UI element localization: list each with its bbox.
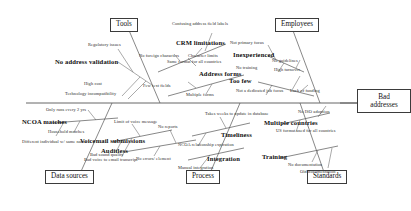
cause-label-multiple-forms[interactable]: Multiple forms [186,93,214,98]
twig-no-address-validation [118,62,152,85]
cause-label-takes-weeks-update-database[interactable]: Takes weeks to update in database [205,112,249,117]
cause-label-us-format-all-countries[interactable]: US format used for all countries [276,129,322,134]
twig-old-documentation [328,148,332,168]
cause-label-no-iso-adoption[interactable]: No ISO adoption [298,110,330,115]
bone-label-multiple-countries[interactable]: Multiple countries [264,120,318,127]
twig-few-text-fields [188,82,196,88]
cause-label-few-text-fields[interactable]: Few text fields [143,84,171,89]
cause-label-no-errors-element[interactable]: No errors/ element [136,157,171,162]
cause-label-household-matches[interactable]: Household matches [48,130,84,135]
effect-label-line1: Bad addresses [364,93,404,109]
cause-label-bad-voice-to-email-transcript[interactable]: Bad voice to email transcript [84,158,122,163]
twig-no-documentation [312,150,318,162]
cause-label-no-documentation[interactable]: No documentation [288,163,322,168]
bone-label-voicemail-submissions[interactable]: Voicemail submissions [80,138,145,145]
cause-label-not-primary-focus[interactable]: Not primary focus [230,41,264,46]
cause-label-ncoa-relationship-expiration[interactable]: NCOA relationship expiration [178,143,216,148]
cause-label-different-individual-same-name[interactable]: Different individual w/ same name [22,140,66,145]
twig-no-reports [170,130,176,143]
bone-label-timeliness[interactable]: Timeliness [221,132,252,139]
category-box-employees[interactable]: Employees [275,18,319,32]
twig-regulatory [118,49,133,72]
cause-label-only-runs-every-2-yrs[interactable]: Only runs every 2 yrs [46,108,86,113]
twig-takes-weeks [220,117,226,128]
twig-no-errors [154,146,160,156]
cause-label-not-dedicated-job-focus[interactable]: Not a dedicated job focus [236,89,272,94]
cause-label-confusing-address-field-labels[interactable]: Confusing address field labels [172,22,228,27]
cause-label-limit-of-voice-message[interactable]: Limit of voice message [114,120,144,125]
category-box-data-sources[interactable]: Data sources [45,170,94,184]
cause-label-no-reports[interactable]: No reports [158,125,178,130]
category-label-process: Process [192,172,214,180]
bone-label-crm-limitations[interactable]: CRM limitations [176,40,225,47]
cause-label-character-limits[interactable]: Character limits [188,54,218,59]
cause-label-high-cost[interactable]: High cost [84,82,102,87]
twig-only-2yrs [88,110,96,120]
cause-label-no-training[interactable]: No training [236,66,257,71]
cause-label-no-guidelines[interactable]: No guidelines [272,59,298,64]
bone-label-no-address-validation[interactable]: No address validation [55,59,118,66]
twig-limit-voice [132,124,140,136]
category-label-data-sources: Data sources [51,172,88,180]
bone-label-training[interactable]: Training [262,154,287,161]
effect-box-bad-addresses[interactable]: Bad addresses [357,89,411,113]
bone-label-ncoa-matches[interactable]: NCOA matches [22,119,67,126]
cause-label-no-foreign-characters[interactable]: No foreign characters [139,54,179,59]
bone-label-too-few[interactable]: Too few [229,78,252,85]
cause-label-lack-of-funding[interactable]: Lack of funding [290,89,320,94]
bone-label-integration[interactable]: Integration [207,156,240,163]
cause-label-same-format-all-countries[interactable]: Same format for all countries [167,60,215,65]
cause-label-technology-incompatibility[interactable]: Technology incompatibility [65,92,116,97]
cause-label-old-documentation[interactable]: Old documentation [300,170,335,175]
twig-high-cost [122,77,140,96]
bone-tools [128,28,160,103]
cause-label-manual-integration[interactable]: Manual integration [178,166,213,171]
cause-label-high-turnover[interactable]: High turnover [274,68,300,73]
bone-training [280,146,338,158]
bone-label-inexperienced[interactable]: Inexperienced [233,52,274,59]
cause-label-regulatory-issues[interactable]: Regulatory issues [88,43,121,48]
category-label-employees: Employees [281,20,313,28]
category-box-tools[interactable]: Tools [110,18,138,32]
category-label-tools: Tools [116,20,132,28]
category-box-process[interactable]: Process [186,170,220,184]
